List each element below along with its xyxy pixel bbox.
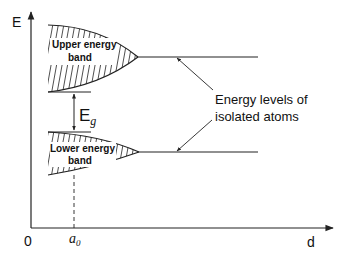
hatch-line [145,128,154,178]
y-axis-label: E [12,14,21,30]
hatch-line [123,20,137,96]
a0-label: a0 [69,231,81,248]
lower-band-label-line2: band [68,155,92,166]
hatch-line [128,20,142,96]
origin-label: 0 [24,233,32,249]
hatch-line [139,20,153,96]
hatch-line [145,20,159,96]
lower-energy-band: Lower energy band [40,128,154,178]
energy-band-diagram: E d 0 a0 Upper energy band Lower energy … [0,0,349,261]
upper-band-label-line2: band [68,52,92,63]
hatch-line [40,128,49,178]
hatch-line [139,128,148,178]
hatch-line [117,20,131,96]
hatch-line [117,128,126,178]
lower-band-label-line1: Lower energy [50,143,115,154]
hatch-line [134,20,148,96]
hatch-line [123,128,132,178]
annotation-line2: isolated atoms [215,109,299,124]
upper-band-label-line1: Upper energy [52,39,117,50]
x-axis-label: d [307,234,315,250]
annotation-arrow-lower [177,120,212,151]
annotation-arrow-upper [177,58,213,90]
annotation-line1: Energy levels of [215,92,308,107]
upper-energy-band: Upper energy band [40,20,158,96]
band-gap-label: Eg [79,106,96,128]
